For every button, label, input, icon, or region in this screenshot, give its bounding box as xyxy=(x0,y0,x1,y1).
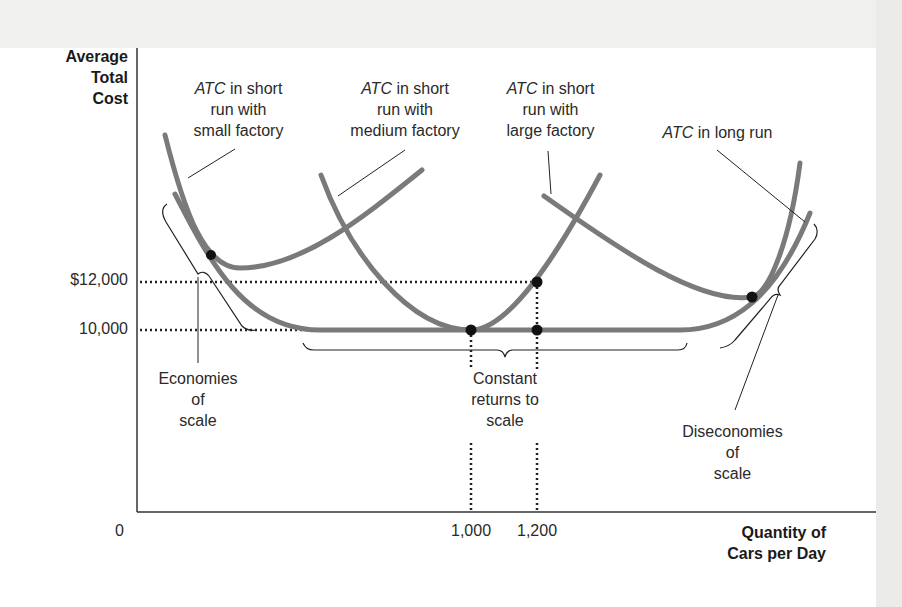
atc-term: ATC xyxy=(507,80,538,97)
label-diseconomies-of-scale: Diseconomies of scale xyxy=(675,421,790,484)
label-long-run: ATC in long run xyxy=(655,122,780,143)
label-constant-returns: Constant returns to scale xyxy=(455,368,555,431)
y-tick-12000: $12,000 xyxy=(60,271,128,289)
braces xyxy=(163,204,817,357)
label-line: scale xyxy=(675,463,790,484)
atc-term: ATC xyxy=(361,80,392,97)
y-axis-title: Average Total Cost xyxy=(40,46,128,109)
constant-returns-brace xyxy=(303,343,687,357)
atc-medium-factory-curve xyxy=(321,175,600,330)
x-axis-title-line: Quantity of xyxy=(700,522,826,543)
label-line: in short xyxy=(392,80,449,97)
label-small-factory: ATC in short run with small factory xyxy=(176,78,301,141)
label-line: scale xyxy=(455,410,555,431)
x-tick-1000: 1,000 xyxy=(451,522,491,540)
label-line: run with xyxy=(340,99,470,120)
atc-term: ATC xyxy=(663,124,694,141)
y-axis-title-line: Average xyxy=(40,46,128,67)
label-line: in long run xyxy=(693,124,772,141)
label-line: run with xyxy=(176,99,301,120)
label-economies-of-scale: Economies of scale xyxy=(148,368,248,431)
atc-large-factory-curve xyxy=(544,163,800,298)
label-line: Diseconomies xyxy=(675,421,790,442)
label-line: of xyxy=(148,389,248,410)
label-line: run with xyxy=(498,99,603,120)
label-line: in short xyxy=(225,80,282,97)
label-medium-factory: ATC in short run with medium factory xyxy=(340,78,470,141)
label-line: returns to xyxy=(455,389,555,410)
highlight-points xyxy=(206,250,758,336)
label-line: large factory xyxy=(498,120,603,141)
label-line: medium factory xyxy=(340,120,470,141)
x-axis-title: Quantity of Cars per Day xyxy=(700,522,826,564)
label-line: scale xyxy=(148,410,248,431)
y-axis-title-line: Cost xyxy=(40,88,128,109)
label-line: of xyxy=(675,442,790,463)
y-axis-title-line: Total xyxy=(40,67,128,88)
label-line: Constant xyxy=(455,368,555,389)
x-axis-title-line: Cars per Day xyxy=(700,543,826,564)
label-line: in short xyxy=(537,80,594,97)
y-tick-10000: 10,000 xyxy=(60,320,128,338)
label-large-factory: ATC in short run with large factory xyxy=(498,78,603,141)
x-tick-1200: 1,200 xyxy=(517,522,557,540)
x-tick-0: 0 xyxy=(115,522,124,540)
label-line: small factory xyxy=(176,120,301,141)
atc-term: ATC xyxy=(195,80,226,97)
label-line: Economies xyxy=(148,368,248,389)
